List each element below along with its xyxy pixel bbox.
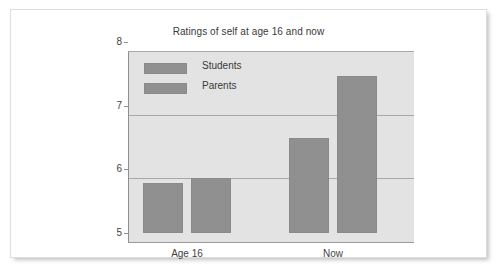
y-axis-tick-mark-8	[124, 42, 128, 43]
bar-parents-age-16	[191, 178, 231, 233]
x-axis-line	[128, 242, 414, 243]
y-axis-tick-label-8: 8	[96, 36, 122, 47]
y-axis-tick-mark-5	[124, 233, 128, 234]
y-axis-tick-label-7: 7	[96, 100, 122, 111]
y-axis-tick-mark-7	[124, 106, 128, 107]
chart-card: Ratings of self at age 16 and now 5678 A…	[10, 9, 487, 258]
bar-parents-now	[337, 76, 377, 233]
y-axis-tick-mark-6	[124, 169, 128, 170]
legend-label-students: Students	[202, 60, 241, 71]
bar-students-age-16	[143, 183, 183, 233]
y-axis-tick-label-5: 5	[96, 227, 122, 238]
legend-swatch-parents	[144, 83, 187, 94]
chart-title: Ratings of self at age 16 and now	[11, 26, 486, 37]
bar-students-now	[289, 138, 329, 234]
x-axis-tick-label-age-16: Age 16	[137, 248, 237, 259]
x-axis-tick-label-now: Now	[283, 248, 383, 259]
legend-label-parents: Parents	[202, 80, 236, 91]
y-axis-tick-label-6: 6	[96, 163, 122, 174]
legend-swatch-students	[144, 63, 187, 74]
gridline-8	[129, 51, 414, 52]
screenshot-canvas: Ratings of self at age 16 and now 5678 A…	[0, 0, 502, 275]
